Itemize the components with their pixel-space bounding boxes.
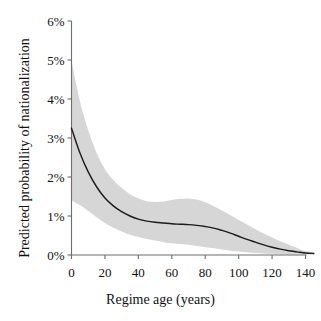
x-tick-label: 20 [98,266,111,279]
y-tick-label: 0% [47,249,64,262]
chart-figure: 6%5%4%3%2%1%0% 020406080100120140 Regime… [0,0,321,321]
y-tick-label: 1% [47,210,64,223]
x-tick-label: 100 [229,266,249,279]
x-axis-ticks [72,255,306,259]
x-axis-title: Regime age (years) [0,292,321,308]
y-axis-ticks [68,21,72,255]
x-tick-label: 60 [165,266,178,279]
x-tick-label: 40 [132,266,145,279]
y-tick-label: 4% [47,93,64,106]
x-tick-label: 120 [262,266,282,279]
y-tick-label: 3% [47,132,64,145]
x-tick-label: 80 [199,266,212,279]
y-axis-title: Predicted probability of nationalization [17,28,33,268]
x-tick-label: 0 [68,266,75,279]
x-tick-label: 140 [296,266,316,279]
y-tick-label: 6% [47,15,64,28]
y-tick-label: 2% [47,171,64,184]
y-tick-label: 5% [47,54,64,67]
